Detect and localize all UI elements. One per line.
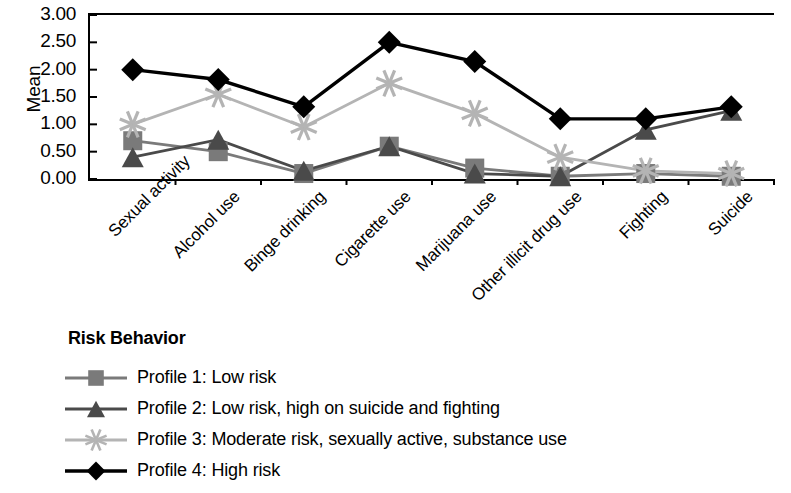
- y-axis-tick-label: 2.50: [20, 31, 76, 50]
- y-axis-tick-label: 2.00: [20, 59, 76, 78]
- risk-behavior-line-chart: Mean 3.002.502.001.501.000.500.00 Sexual…: [0, 0, 791, 493]
- legend-label: Profile 2: Low risk, high on suicide and…: [137, 398, 500, 419]
- data-point-star: [462, 100, 488, 126]
- chart-legend: Risk Behavior Profile 1: Low riskProfile…: [64, 328, 764, 486]
- data-point-diamond: [549, 107, 572, 130]
- y-axis-tick-labels: 3.002.502.001.501.000.500.00: [18, 0, 76, 190]
- y-axis-tick-label: 1.50: [20, 86, 76, 105]
- legend-label: Profile 3: Moderate risk, sexually activ…: [137, 429, 567, 450]
- data-point-star: [376, 70, 402, 96]
- data-point-square: [88, 370, 104, 386]
- y-axis-tick-label: 1.00: [20, 113, 76, 132]
- plot-area: [88, 13, 774, 181]
- series-markers-4: [121, 31, 743, 131]
- data-point-diamond: [121, 58, 144, 81]
- data-point-diamond: [463, 50, 486, 73]
- legend-rows: Profile 1: Low riskProfile 2: Low risk, …: [64, 362, 764, 486]
- data-point-star: [547, 144, 573, 170]
- legend-label: Profile 1: Low risk: [137, 367, 276, 388]
- legend-item-profile-4[interactable]: Profile 4: High risk: [64, 455, 764, 486]
- x-axis-tick-label: Sexual activity: [105, 187, 159, 241]
- data-point-diamond: [720, 95, 743, 118]
- legend-marker-star-icon: [64, 427, 128, 453]
- data-point-diamond: [207, 68, 230, 91]
- y-axis-tick-label: 0.50: [20, 141, 76, 160]
- data-point-diamond: [87, 461, 106, 480]
- legend-marker-triangle-icon: [64, 396, 128, 422]
- plot-svg: [90, 15, 774, 179]
- y-axis-tick-label: 0.00: [20, 168, 76, 187]
- x-axis-tick-labels: Sexual activityAlcohol useBinge drinking…: [88, 179, 778, 309]
- legend-item-profile-2[interactable]: Profile 2: Low risk, high on suicide and…: [64, 393, 764, 424]
- legend-label: Profile 4: High risk: [137, 460, 280, 481]
- y-axis-tick-label: 3.00: [20, 4, 76, 23]
- legend-marker-square-icon: [64, 365, 128, 391]
- legend-item-profile-1[interactable]: Profile 1: Low risk: [64, 362, 764, 393]
- legend-item-profile-3[interactable]: Profile 3: Moderate risk, sexually activ…: [64, 424, 764, 455]
- legend-marker-diamond-icon: [64, 458, 128, 484]
- data-point-triangle: [207, 130, 229, 150]
- legend-title: Risk Behavior: [68, 328, 764, 349]
